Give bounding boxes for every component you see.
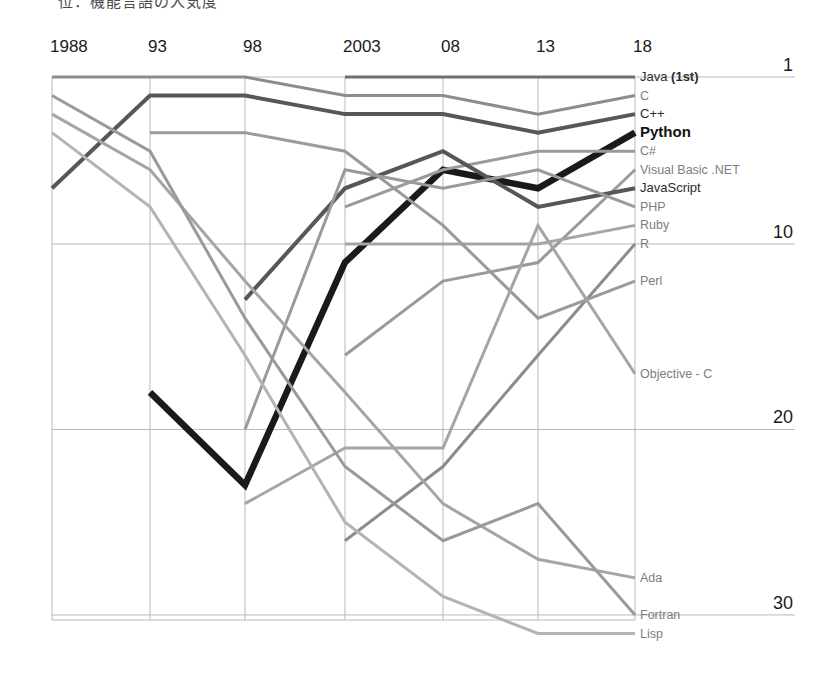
- series-label-javascript: JavaScript: [640, 180, 701, 195]
- x-tick-label-1988: 1988: [50, 37, 88, 56]
- series-line-ruby: [345, 225, 635, 244]
- series-label-fortran: Fortran: [640, 608, 680, 622]
- series-line-perl: [150, 133, 635, 319]
- series-label-c: C: [640, 89, 649, 103]
- series-label-lisp: Lisp: [640, 627, 663, 641]
- series-label-objective-c: Objective - C: [640, 367, 712, 381]
- series-label-java-1st: Java (1st): [640, 69, 699, 84]
- x-tick-label-13: 13: [536, 37, 555, 56]
- series-label-python: Python: [640, 123, 691, 140]
- y-tick-label-10: 10: [773, 222, 793, 242]
- y-tick-label-30: 30: [773, 593, 793, 613]
- series-label-ruby: Ruby: [640, 218, 670, 232]
- series-label-ada: Ada: [640, 571, 662, 585]
- series-label-r: R: [640, 237, 649, 251]
- chart-canvas: 1988939820030813181102030Java (1st)CC++P…: [0, 0, 822, 673]
- series-label-c: C#: [640, 144, 656, 158]
- x-tick-label-08: 08: [441, 37, 460, 56]
- x-tick-label-2003: 2003: [343, 37, 381, 56]
- cropped-heading: 位：機能言語の人気度: [58, 0, 218, 11]
- series-label-c: C++: [640, 106, 665, 121]
- y-tick-label-1: 1: [783, 55, 793, 75]
- series-line-lisp: [52, 133, 635, 634]
- x-tick-label-18: 18: [633, 37, 652, 56]
- series-line-r: [345, 244, 635, 541]
- series-line-objective-c: [245, 225, 635, 503]
- y-tick-label-20: 20: [773, 407, 793, 427]
- series-label-php: PHP: [640, 200, 666, 214]
- series-line-php: [245, 170, 635, 430]
- series-label-perl: Perl: [640, 274, 662, 288]
- x-tick-label-98: 98: [243, 37, 262, 56]
- x-tick-label-93: 93: [148, 37, 167, 56]
- ranking-chart: 位：機能言語の人気度 1988939820030813181102030Java…: [0, 0, 822, 673]
- series-label-visual-basic-net: Visual Basic .NET: [640, 163, 740, 177]
- series-line-c: [52, 77, 635, 114]
